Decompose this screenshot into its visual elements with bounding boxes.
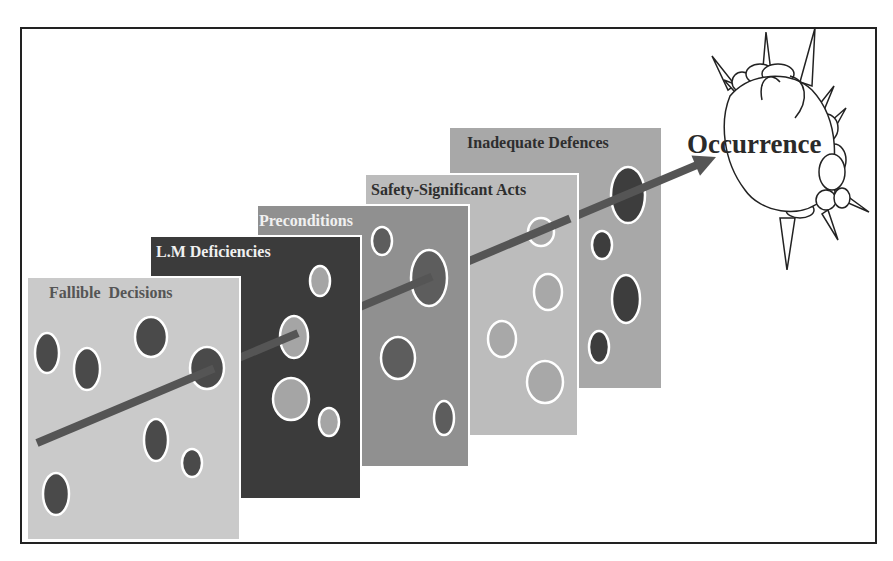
hole: [488, 321, 516, 357]
layer-label: Fallible Decisions: [49, 284, 173, 301]
layer-label: L.M Deficiencies: [156, 243, 271, 260]
layer-label: Inadequate Defences: [467, 134, 609, 152]
hole: [319, 408, 339, 436]
hole: [182, 449, 202, 477]
hole: [144, 419, 168, 461]
hole: [612, 275, 640, 323]
hole: [381, 337, 415, 379]
hole: [273, 378, 309, 420]
hole: [589, 331, 609, 363]
hole: [592, 231, 612, 259]
hole: [310, 266, 330, 296]
hole: [534, 274, 562, 310]
layer-fallible-decisions: Fallible Decisions: [27, 277, 240, 540]
hole: [74, 348, 100, 390]
hole: [43, 473, 69, 515]
hole: [135, 317, 167, 357]
hole: [434, 401, 454, 435]
hole: [527, 361, 563, 403]
hole: [35, 333, 59, 373]
outcome-label: Occurrence: [687, 129, 821, 159]
hole: [372, 227, 392, 255]
layer-label: Safety-Significant Acts: [371, 181, 526, 199]
swiss-cheese-diagram: Inadequate DefencesSafety-Significant Ac…: [0, 0, 893, 561]
layer-label: Preconditions: [259, 212, 353, 229]
